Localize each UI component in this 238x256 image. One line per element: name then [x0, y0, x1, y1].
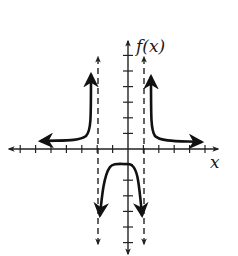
curve-right-branch	[151, 77, 201, 142]
x-axis	[9, 145, 218, 153]
function-curves	[41, 75, 201, 215]
function-graph	[0, 0, 238, 256]
y-axis-label: f(x)	[136, 36, 165, 56]
y-axis	[123, 41, 133, 254]
curve-middle-branch	[100, 164, 142, 215]
curve-left-branch	[41, 75, 91, 141]
x-axis-label: x	[210, 152, 220, 172]
vertical-asymptotes	[98, 57, 144, 244]
